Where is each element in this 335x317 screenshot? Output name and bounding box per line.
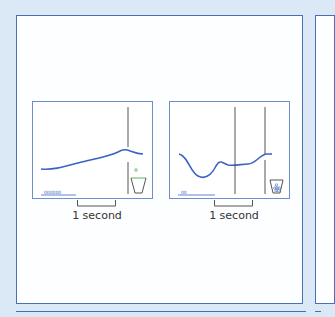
- ball-icon: [135, 169, 138, 172]
- cup-icon: [131, 178, 146, 193]
- scale-label-left: 1 second: [57, 209, 137, 222]
- balls-in-cup-icon: [274, 184, 281, 192]
- plot-right: 00: [169, 101, 290, 199]
- event-markers: 000000: [44, 190, 61, 195]
- event-markers: 00: [181, 190, 187, 195]
- time-scale-bar-right: [214, 200, 254, 208]
- divider: [16, 311, 306, 312]
- scale-label-right: 1 second: [194, 209, 274, 222]
- time-scale-bar-left: [77, 200, 117, 208]
- divider: [315, 311, 321, 312]
- adjacent-figure-panel: [315, 15, 335, 304]
- plot-left: 000000: [32, 101, 153, 199]
- trace-line: [179, 154, 272, 177]
